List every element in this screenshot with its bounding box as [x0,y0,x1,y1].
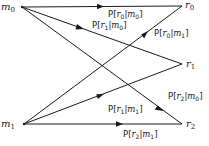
edge-m1-r2 [24,121,182,126]
node-dot-m1 [23,123,25,125]
edge-m0-r0 [22,4,182,9]
node-label-m1: m1 [1,118,15,131]
node-label-r1: r1 [186,58,195,71]
channel-diagram: m0 m1 r0 r1 r2 P[r0|m0] P[r1|m0] P[r0|m1… [0,0,209,146]
edge-label-r2-m1: P[r2|m1] [123,129,157,140]
arrowhead-icon [141,31,148,38]
arrowhead-icon [96,94,104,99]
node-label-m0: m0 [1,1,15,14]
arrowhead-icon [97,4,104,9]
edge-label-r2-m0: P[r2|m0] [168,91,202,102]
node-dot-m0 [21,6,23,8]
arrowhead-icon [155,106,164,111]
node-label-r0: r0 [185,0,194,12]
edge-label-r1-m1: P[r1|m1] [108,104,142,115]
edge-m1-r1 [24,64,182,124]
arrowhead-icon [76,24,85,29]
node-label-r2: r2 [186,118,195,131]
arrowhead-icon [116,121,123,126]
edge-label-r1-m0: P[r1|m0] [92,20,126,31]
edge-label-r0-m1: P[r0|m1] [154,28,188,39]
edge-label-r0-m0: P[r0|m0] [108,9,142,20]
